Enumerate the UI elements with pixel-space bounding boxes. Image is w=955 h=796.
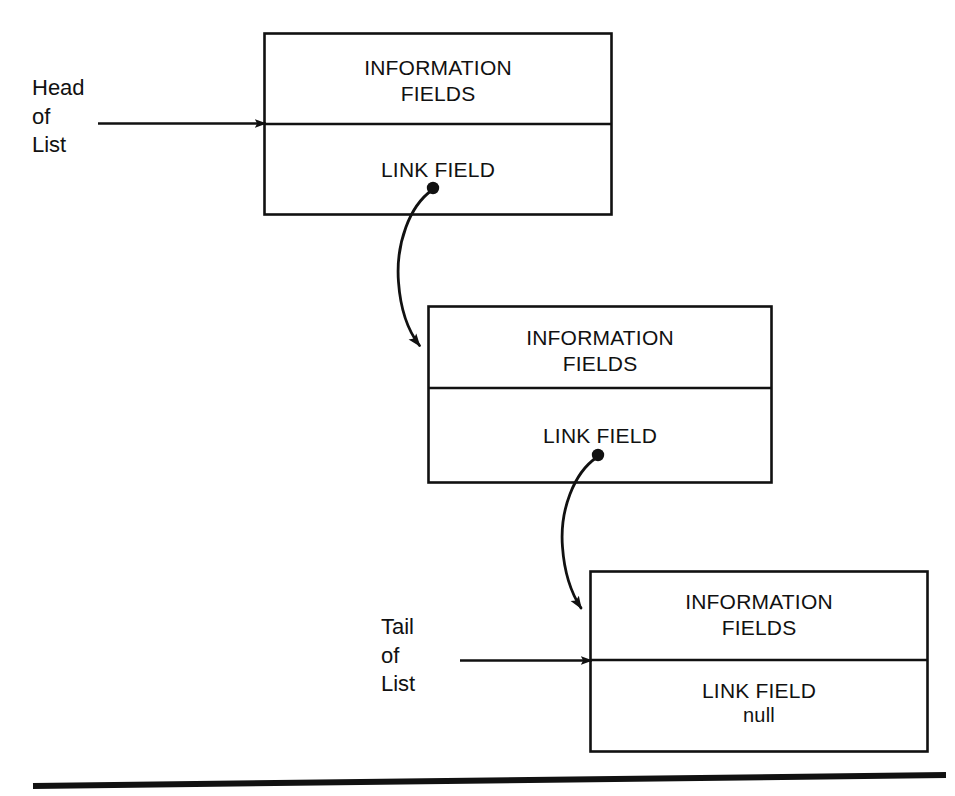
diagram-vector-layer — [0, 0, 955, 796]
head-of-list-label: Head of List — [32, 74, 122, 160]
linked-list-diagram: Head of List Tail of List INFORMATION FI… — [0, 0, 955, 796]
list-node-3-box — [591, 572, 928, 752]
list-node-3-outline — [591, 572, 928, 752]
tail-of-list-label: Tail of List — [381, 613, 471, 699]
bottom-rule — [33, 775, 946, 786]
